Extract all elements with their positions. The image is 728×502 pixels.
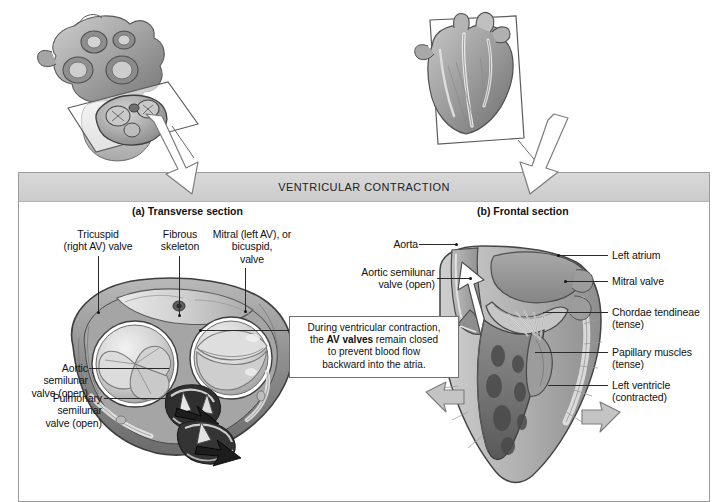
label-left-atrium: Left atrium [612, 249, 712, 261]
callout-line-3: to prevent blood flow [328, 346, 420, 357]
leader-callout-to-transverse [200, 330, 290, 331]
callout-line-4: backward into the atria. [322, 359, 425, 370]
contraction-arrow-icon [582, 402, 620, 432]
banner-bar: VENTRICULAR CONTRACTION [19, 173, 709, 202]
label-tricuspid-valve: Tricuspid (right AV) valve [42, 228, 154, 253]
callout-line-2-bold: AV valves [327, 334, 374, 345]
label-aorta: Aorta [378, 238, 418, 250]
down-left-arrow-icon [508, 112, 578, 198]
label-left-ventricle: Left ventricle (contracted) [612, 379, 722, 404]
callout-line-2-pre: the [310, 334, 327, 345]
section-caption-b: (b) Frontal section [477, 205, 569, 217]
down-right-arrow-icon [140, 112, 220, 198]
callout-line-2-post: remain closed [373, 334, 438, 345]
tricuspid-valve-closed [92, 321, 178, 407]
callout-line-1: During ventricular contraction, [308, 322, 441, 333]
leader-mitral-valve-b [565, 281, 608, 282]
leader-dot-aorta [455, 243, 458, 246]
banner-title: VENTRICULAR CONTRACTION [19, 173, 709, 201]
leader-dot-tricuspid [97, 311, 100, 314]
leader-dot-mitral [244, 310, 247, 313]
leader-aorta [419, 244, 457, 245]
leader-chordae-tendineae [543, 312, 608, 313]
leader-dot-mitral-valve-b [564, 280, 567, 283]
label-aortic-semilunar-valve-b: Aortic semilunar valve (open) [337, 266, 435, 291]
label-mitral-valve: Mitral (left AV), or bicuspid, valve [198, 228, 306, 265]
label-papillary-muscles: Papillary muscles (tense) [612, 346, 724, 371]
callout-box: During ventricular contraction, the AV v… [289, 316, 459, 378]
leader-mitral [245, 268, 246, 312]
leader-aortic-semilunar-a [89, 368, 169, 369]
leader-dot-fibrous-skeleton [178, 314, 181, 317]
leader-fibrous-skeleton [179, 256, 180, 316]
leader-dot-callout-transverse [199, 329, 202, 332]
leader-aortic-semilunar-b [437, 278, 471, 279]
leader-dot-left-atrium [557, 254, 560, 257]
leader-left-ventricle [548, 385, 608, 386]
leader-dot-aortic-semilunar-b [469, 277, 472, 280]
leader-papillary-muscles [535, 352, 608, 353]
leader-pulmonary-semilunar-a [104, 398, 179, 399]
section-caption-a: (a) Transverse section [132, 205, 243, 217]
label-pulmonary-semilunar-valve-a: Pulmonary semilunar valve (open) [6, 392, 102, 429]
leader-left-atrium [558, 255, 608, 256]
label-mitral-valve: Mitral valve [612, 275, 712, 287]
leader-tricuspid [98, 256, 99, 313]
label-chordae-tendineae: Chordae tendineae (tense) [612, 306, 724, 331]
